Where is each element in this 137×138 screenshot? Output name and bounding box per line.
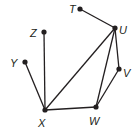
vertex-w xyxy=(93,104,98,109)
vertex-labels: TUVWXYZ xyxy=(10,3,132,129)
vertex-label-v: V xyxy=(123,67,132,79)
vertex-x xyxy=(42,107,47,112)
edges xyxy=(25,9,119,110)
vertex-label-x: X xyxy=(37,117,46,129)
vertex-label-w: W xyxy=(89,115,101,127)
graph-diagram: TUVWXYZ xyxy=(0,0,137,138)
vertex-label-t: T xyxy=(69,3,77,15)
edge-w-x xyxy=(45,107,96,110)
vertex-y xyxy=(22,59,27,64)
vertex-label-y: Y xyxy=(10,57,18,69)
edge-v-w xyxy=(96,69,119,107)
vertex-z xyxy=(41,29,46,34)
vertex-v xyxy=(116,66,121,71)
vertex-label-u: U xyxy=(119,24,127,36)
edge-t-u xyxy=(80,9,115,28)
edge-x-y xyxy=(25,62,45,110)
vertex-label-z: Z xyxy=(29,27,38,39)
vertex-t xyxy=(77,6,82,11)
edge-x-z xyxy=(44,32,45,110)
vertex-u xyxy=(112,25,117,30)
vertices xyxy=(22,6,121,112)
